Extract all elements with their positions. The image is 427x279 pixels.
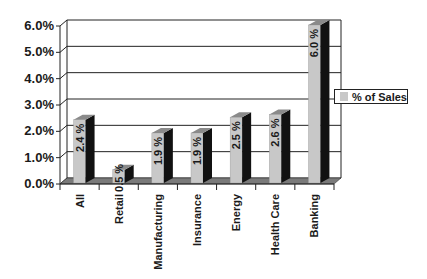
bar-side-face: [164, 128, 173, 183]
bar-insurance: 1.9 %: [191, 128, 212, 183]
legend-swatch: [340, 92, 348, 101]
bar-manufacturing: 1.9 %: [152, 128, 173, 183]
bars: 2.4 %0.5 %1.9 %1.9 %2.5 %2.6 %6.0 %: [74, 20, 330, 192]
x-tick-label: Banking: [308, 194, 320, 237]
bar-chart: 0.0%1.0%2.0%3.0%4.0%5.0%6.0% 2.4 %0.5 %1…: [0, 0, 427, 279]
y-tick-label: 1.0%: [24, 150, 54, 165]
bar-health-care: 2.6 %: [269, 110, 290, 183]
y-tick-label: 0.0%: [24, 176, 54, 191]
gridline-diagonal: [60, 73, 67, 79]
y-tick-label: 4.0%: [24, 71, 54, 86]
bar-side-face: [86, 115, 95, 183]
legend-label: % of Sales: [352, 91, 407, 103]
bar-side-face: [203, 128, 212, 183]
bar-retail: 0.5 %: [113, 164, 134, 192]
x-axis: AllRetailManufacturingInsuranceEnergyHea…: [60, 184, 334, 270]
y-tick-label: 6.0%: [24, 18, 54, 33]
gridline-diagonal: [60, 20, 67, 26]
y-tick-label: 2.0%: [24, 123, 54, 138]
y-tick-label: 3.0%: [24, 97, 54, 112]
x-tick-label: Energy: [230, 193, 242, 231]
bar-side-face: [281, 110, 290, 183]
x-tick-label: Retail: [113, 194, 125, 224]
data-label: 6.0 %: [308, 29, 320, 57]
bar-banking: 6.0 %: [308, 20, 329, 183]
bar-energy: 2.5 %: [230, 112, 251, 183]
bar-side-face: [242, 112, 251, 183]
gridline-diagonal: [60, 46, 67, 52]
y-axis: 0.0%1.0%2.0%3.0%4.0%5.0%6.0%: [24, 18, 60, 191]
x-tick-label: All: [74, 194, 86, 208]
gridline-diagonal: [60, 125, 67, 131]
gridline-diagonal: [60, 152, 67, 158]
bar-side-face: [320, 20, 329, 183]
gridline-diagonal: [60, 99, 67, 105]
data-label: 1.9 %: [152, 137, 164, 165]
data-label: 1.9 %: [191, 137, 203, 165]
x-tick-label: Manufacturing: [152, 194, 164, 270]
data-label: 2.4 %: [74, 124, 86, 152]
x-tick-label: Insurance: [191, 194, 203, 246]
legend: % of Sales: [334, 89, 408, 104]
data-label: 2.6 %: [269, 118, 281, 146]
y-tick-label: 5.0%: [24, 44, 54, 59]
data-label: 0.5 %: [113, 164, 125, 192]
x-tick-label: Health Care: [269, 194, 281, 255]
data-label: 2.5 %: [230, 121, 242, 149]
bar-all: 2.4 %: [74, 115, 95, 183]
